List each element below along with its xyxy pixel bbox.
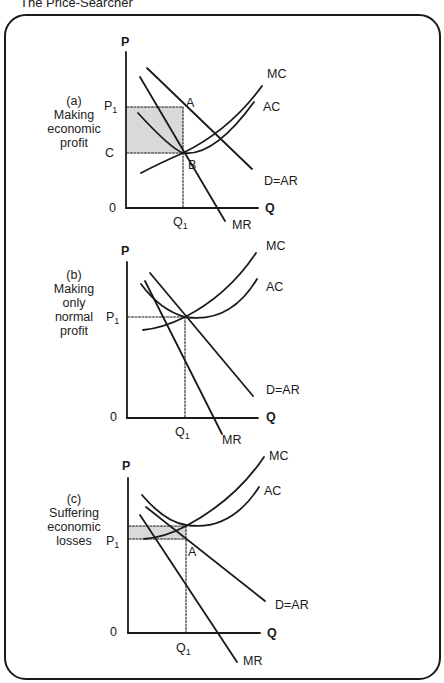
axis-p-label: P <box>121 244 129 258</box>
panel-a-graph <box>126 52 262 221</box>
mr-label: MR <box>222 433 241 447</box>
axis-q-label: Q <box>265 201 275 215</box>
panel-b-graph <box>127 253 258 434</box>
p1-label: P1 <box>104 99 117 115</box>
c-label: C <box>105 146 114 160</box>
ac-label: AC <box>263 100 280 114</box>
mr-label: MR <box>232 218 251 232</box>
q1-label: Q1 <box>175 425 190 441</box>
demand-label: D=AR <box>275 598 309 612</box>
ac-curve <box>142 487 259 526</box>
q1-label: Q1 <box>176 641 191 657</box>
point-a-label: A <box>188 545 197 559</box>
mc-label: MC <box>267 67 286 81</box>
point-a-label: A <box>186 96 195 110</box>
demand-curve <box>146 507 265 601</box>
mc-label: MC <box>266 239 285 253</box>
demand-label: D=AR <box>266 383 300 397</box>
panel-c-graph <box>128 457 265 662</box>
mc-label: MC <box>269 449 288 463</box>
p1-label: P1 <box>106 534 119 550</box>
origin-label: 0 <box>110 625 117 639</box>
ac-label: AC <box>266 280 283 294</box>
p1-label: P1 <box>106 310 119 326</box>
axis-q-label: Q <box>267 626 277 640</box>
ac-label: AC <box>264 484 281 498</box>
origin-label: 0 <box>110 410 117 424</box>
demand-label: D=AR <box>264 174 298 188</box>
axis-p-label: P <box>122 459 130 473</box>
mr-label: MR <box>243 654 262 668</box>
demand-curve <box>150 273 253 396</box>
axis-p-label: P <box>121 35 129 49</box>
diagram-canvas: P Q 0 P1 C Q1 A B MC AC D=AR MR P Q 0 P1… <box>0 0 444 683</box>
mr-curve <box>145 281 222 434</box>
ac-curve <box>141 279 257 318</box>
point-b-label: B <box>188 158 196 172</box>
q1-label: Q1 <box>173 215 188 231</box>
origin-label: 0 <box>109 201 116 215</box>
axis-q-label: Q <box>266 410 276 424</box>
